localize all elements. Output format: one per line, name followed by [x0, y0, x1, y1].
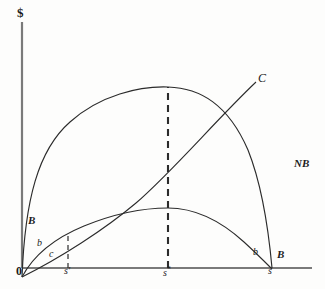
marginal-benefit-label-left: b [37, 238, 42, 248]
diagram-canvas [0, 0, 325, 289]
x-tick-label-s: s [268, 266, 272, 276]
c-curve [22, 82, 256, 277]
net-benefit-diagram: $ 0 B b c s′ s* C NB b B s [0, 0, 325, 289]
x-tick-label-s-star: s* [163, 266, 171, 278]
net-benefit-label: NB [294, 158, 309, 169]
nb-curve [22, 87, 272, 277]
marginal-cost-label-left: c [49, 249, 53, 259]
y-axis-label: $ [17, 6, 24, 19]
cost-curve-label: C [258, 72, 266, 84]
benefit-curve-label-right: B [277, 249, 284, 260]
s-star-superscript: * [167, 265, 171, 274]
x-tick-label-s-prime: s′ [64, 266, 70, 276]
marginal-benefit-label-right: b [253, 247, 258, 257]
b-curve [22, 208, 272, 277]
benefit-curve-label-left: B [28, 215, 35, 226]
origin-label: 0 [16, 265, 22, 277]
